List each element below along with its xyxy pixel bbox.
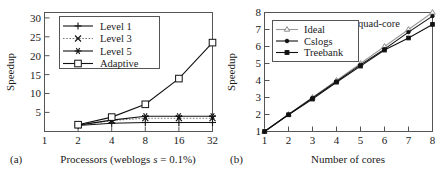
x-axis-label-a: Processors (weblogs s = 0.1%) — [60, 153, 196, 166]
y-tick-label-a-3: 20 — [30, 50, 42, 62]
figure-container: 5 10 15 20 25 30 Speedup 1 2 4 8 — [0, 0, 445, 174]
panel-label-a: (a) — [10, 153, 23, 166]
legend-b-label-2: Treebank — [304, 47, 344, 58]
panel-label-b: (b) — [230, 153, 243, 166]
y-tick-label-b-2: 3 — [256, 91, 262, 103]
y-axis-label-b: Speedup — [225, 53, 237, 91]
legend-b-label-1: Cslogs — [304, 36, 333, 47]
legend-a-label-2: Level 5 — [100, 46, 132, 57]
legend-a: Level 1 Level 3 Level 5 Adaptive — [60, 17, 160, 70]
legend-a-label-1: Level 3 — [100, 33, 132, 44]
y-tick-label-b-7: 8 — [256, 6, 262, 18]
legend-b-label-0: Ideal — [304, 24, 325, 35]
y-tick-label-a-4: 25 — [30, 31, 42, 43]
x-tick-label-a-0: 1 — [42, 134, 48, 146]
x-tick-label-b-2: 3 — [310, 134, 316, 146]
y-tick-label-b-4: 5 — [256, 57, 262, 69]
chart-a-svg: 5 10 15 20 25 30 Speedup 1 2 4 8 — [0, 0, 222, 174]
x-axis-label-a-suffix: = 0.1%) — [157, 153, 196, 166]
y-tick-label-b-3: 4 — [256, 74, 262, 86]
y-tick-label-b-6: 7 — [256, 23, 262, 35]
legend-b: Ideal Cslogs Treebank — [273, 21, 359, 62]
y-tick-label-b-5: 6 — [256, 40, 262, 52]
y-tick-label-b-1: 2 — [256, 108, 262, 120]
x-tick-label-b-6: 7 — [406, 134, 412, 146]
x-tick-label-a-4: 16 — [173, 134, 185, 146]
x-tick-label-b-5: 6 — [382, 134, 388, 146]
x-tick-label-a-3: 8 — [143, 134, 149, 146]
x-axis-b: 1 2 3 4 5 6 7 8 — [262, 127, 436, 147]
x-tick-label-a-5: 32 — [207, 134, 218, 146]
y-tick-label-a-5: 30 — [30, 12, 42, 24]
x-tick-label-b-7: 8 — [430, 134, 436, 146]
y-tick-label-a-1: 10 — [30, 87, 42, 99]
x-axis-a: 1 2 4 8 16 32 — [42, 127, 218, 147]
x-tick-label-b-3: 4 — [334, 134, 340, 146]
y-tick-label-b-0: 1 — [256, 125, 262, 137]
chart-b-svg: 1 2 3 4 5 6 7 8 Speedup 1 — [222, 0, 445, 174]
x-tick-label-b-4: 5 — [358, 134, 364, 146]
x-axis-label-b: Number of cores — [311, 153, 385, 165]
chart-panel-b: 1 2 3 4 5 6 7 8 Speedup 1 — [222, 0, 445, 174]
x-tick-label-b-0: 1 — [262, 134, 268, 146]
y-axis-label-a: Speedup — [4, 53, 16, 91]
x-axis-label-a-prefix: Processors (weblogs — [60, 153, 153, 166]
legend-a-label-3: Adaptive — [100, 58, 139, 69]
y-axis-a: 5 10 15 20 25 30 — [30, 12, 50, 119]
x-tick-label-a-2: 4 — [109, 134, 115, 146]
legend-a-label-0: Level 1 — [100, 21, 132, 32]
y-tick-label-a-0: 5 — [36, 106, 42, 118]
chart-panel-a: 5 10 15 20 25 30 Speedup 1 2 4 8 — [0, 0, 222, 174]
x-tick-label-b-1: 2 — [286, 134, 292, 146]
x-tick-label-a-1: 2 — [75, 134, 81, 146]
y-tick-label-a-2: 15 — [30, 69, 42, 81]
y-axis-b: 1 2 3 4 5 6 7 8 — [256, 6, 270, 137]
